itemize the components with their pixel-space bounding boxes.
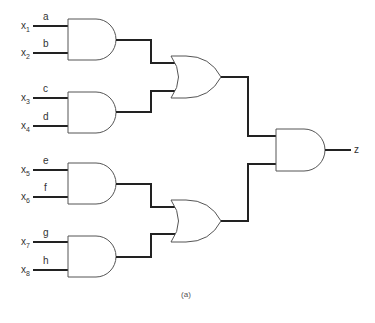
wire-and1-to-or1 <box>116 40 175 63</box>
wire-or2-to-and5 <box>221 164 276 221</box>
wire-or1-to-and5 <box>221 77 276 136</box>
input-label-x7: x7 <box>21 236 30 249</box>
input-wires <box>33 26 68 270</box>
wire-label-e: e <box>43 155 49 166</box>
input-label-x4: x4 <box>21 120 30 133</box>
wire-and3-to-or2 <box>116 184 175 207</box>
wire-label-a: a <box>43 11 49 22</box>
or-gate-2 <box>171 200 221 242</box>
wire-and2-to-or1 <box>116 91 175 112</box>
input-label-x3: x3 <box>21 92 30 105</box>
and-gate-final <box>276 129 325 171</box>
and-gate-1 <box>68 19 116 60</box>
input-label-x6: x6 <box>21 191 30 204</box>
and-gate-2 <box>68 92 116 133</box>
output-label: z <box>354 144 359 155</box>
input-labels: x1 x2 x3 x4 x5 x6 x7 x8 <box>21 20 30 277</box>
wire-and4-to-or2 <box>116 234 175 257</box>
wire-labels: a b c d e f g h <box>43 11 49 266</box>
wire-label-f: f <box>44 182 47 193</box>
input-label-x5: x5 <box>21 164 30 177</box>
wire-label-c: c <box>43 83 48 94</box>
and-gate-3 <box>68 163 116 204</box>
input-label-x8: x8 <box>21 264 30 277</box>
input-label-x2: x2 <box>21 47 30 60</box>
and-gate-4 <box>68 236 116 277</box>
wire-label-h: h <box>43 255 49 266</box>
figure-caption: (a) <box>181 290 191 299</box>
input-label-x1: x1 <box>21 20 30 33</box>
wire-label-d: d <box>43 111 49 122</box>
or-gate-1 <box>171 56 221 98</box>
logic-circuit-diagram: x1 x2 x3 x4 x5 x6 x7 x8 a b c d e f g h … <box>0 0 375 323</box>
wire-label-g: g <box>43 227 49 238</box>
wire-label-b: b <box>43 38 49 49</box>
